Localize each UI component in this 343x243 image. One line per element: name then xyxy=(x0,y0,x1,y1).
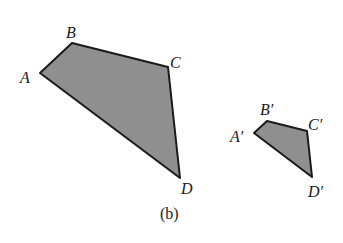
similar-quadrilaterals-diagram: A B C D A′ B′ C′ D′ (b) xyxy=(0,0,343,243)
large-quadrilateral-abcd xyxy=(40,43,180,178)
vertex-label-d: D xyxy=(180,180,193,197)
vertex-label-b: B xyxy=(66,24,76,41)
small-quadrilateral-abcd-prime xyxy=(254,121,312,177)
vertex-label-b-prime: B′ xyxy=(260,101,274,118)
vertex-label-c-prime: C′ xyxy=(308,116,323,133)
vertex-label-d-prime: D′ xyxy=(307,183,324,200)
vertex-label-c: C xyxy=(170,54,181,71)
figure-caption: (b) xyxy=(160,205,179,223)
vertex-label-a-prime: A′ xyxy=(229,128,244,145)
vertex-label-a: A xyxy=(19,69,30,86)
